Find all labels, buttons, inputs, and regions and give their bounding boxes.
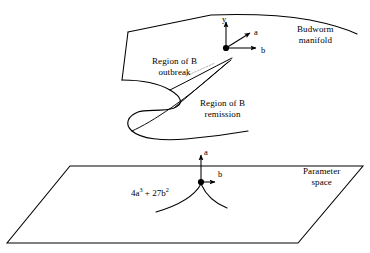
parameter-space-line1: Parameter <box>303 166 340 176</box>
region-outbreak-line2: outbreak <box>158 67 190 77</box>
region-outbreak-line1: Region of B <box>152 56 197 66</box>
upper-origin-dot <box>223 45 229 51</box>
budworm-catastrophe-figure: Budworm manifold Region of B outbreak Re… <box>0 0 370 253</box>
lower-axis-a-label: a <box>204 148 208 157</box>
lower-axes <box>198 155 215 185</box>
parameter-space-line2: space <box>311 177 332 187</box>
budworm-manifold-label: Budworm manifold <box>297 24 334 45</box>
region-of-b-remission-label: Region of B remission <box>200 98 245 119</box>
upper-axis-b-label: b <box>261 46 265 55</box>
cusp-branch-right <box>201 184 227 208</box>
region-remission-line1: Region of B <box>200 98 245 108</box>
parameter-space-label: Parameter space <box>303 166 340 187</box>
cusp-equation-term2: + 27b <box>143 188 166 198</box>
cusp-equation-term1: 4a <box>131 188 140 198</box>
region-of-b-outbreak-label: Region of B outbreak <box>152 56 197 77</box>
lower-axis-b-label: b <box>218 170 222 179</box>
upper-axis-a <box>226 33 250 48</box>
upper-axis-a-label: a <box>254 28 258 37</box>
upper-axis-y-label: y <box>222 15 226 24</box>
upper-axes <box>223 22 256 51</box>
cusp-equation-exponent2: 2 <box>166 186 169 193</box>
manifold-left-edge <box>122 32 128 80</box>
lower-origin-dot <box>198 179 204 185</box>
region-remission-line2: remission <box>205 109 241 119</box>
budworm-manifold-line2: manifold <box>299 35 332 45</box>
budworm-manifold-line1: Budworm <box>297 24 334 34</box>
cusp-equation-label: 4a3 + 27b2 <box>131 188 169 198</box>
